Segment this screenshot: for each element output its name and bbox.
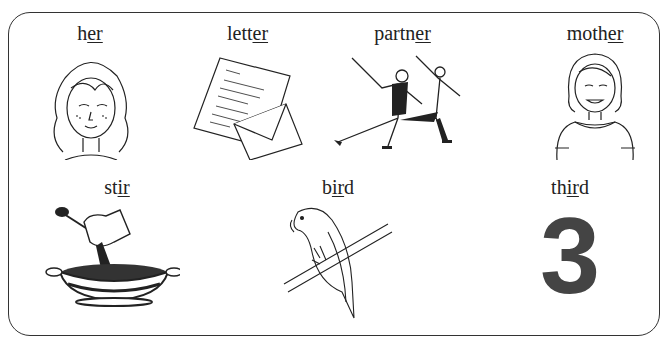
card-stir: stir	[40, 176, 180, 307]
card-letter: letter	[190, 22, 305, 160]
card-third: third 3	[520, 176, 620, 306]
card-partner: partner	[330, 22, 475, 153]
hand-stirring-bowl-icon	[40, 202, 180, 307]
ice-skating-pair-icon	[330, 48, 475, 153]
word-letter: letter	[190, 22, 305, 44]
word-mother: mother	[545, 22, 645, 44]
number-three-icon: 3	[520, 206, 620, 306]
word-bird: bird	[278, 176, 398, 198]
woman-smiling-icon	[545, 48, 645, 160]
card-her: her	[40, 22, 140, 160]
parrot-on-branch-icon	[278, 202, 398, 320]
word-partner: partner	[330, 22, 475, 44]
word-stir: stir	[40, 176, 180, 198]
letter-envelope-icon	[190, 48, 305, 160]
card-mother: mother	[545, 22, 645, 160]
card-bird: bird	[278, 176, 398, 320]
word-her: her	[40, 22, 140, 44]
girl-face-icon	[45, 48, 135, 160]
